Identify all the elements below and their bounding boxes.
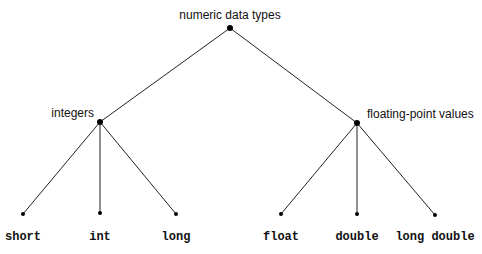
edge-integers-short [23,122,100,214]
tree-edges [23,28,435,215]
node-dot-root [227,25,233,31]
edge-floating-longdouble [357,123,435,215]
node-dot-short [21,212,25,216]
tree-nodes [21,25,437,217]
node-dot-integers [97,119,103,125]
node-dot-int [98,211,102,215]
tree-labels: numeric data typesintegersfloating-point… [5,8,475,244]
node-dot-floating [354,120,360,126]
node-label-floating: floating-point values [367,107,474,121]
edge-integers-long [100,122,176,214]
node-label-long: long [162,230,191,244]
node-label-longdouble: long double [395,230,474,244]
node-label-root: numeric data types [179,8,280,22]
numeric-types-tree-diagram: numeric data typesintegersfloating-point… [0,0,482,254]
edge-floating-float [281,123,357,214]
node-dot-double [355,212,359,216]
node-label-float: float [263,230,299,244]
node-label-integers: integers [51,106,94,120]
node-dot-longdouble [433,213,437,217]
node-label-int: int [89,230,111,244]
edge-root-integers [100,28,230,122]
node-label-short: short [5,230,41,244]
edge-root-floating [230,28,357,123]
node-label-double: double [335,230,378,244]
node-dot-long [174,212,178,216]
node-dot-float [279,212,283,216]
